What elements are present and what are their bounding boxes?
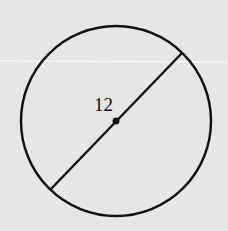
scan-line — [0, 61, 228, 62]
diameter-label: 12 — [94, 94, 113, 115]
circle-diagram: 12 — [0, 0, 228, 231]
center-point — [113, 118, 120, 125]
